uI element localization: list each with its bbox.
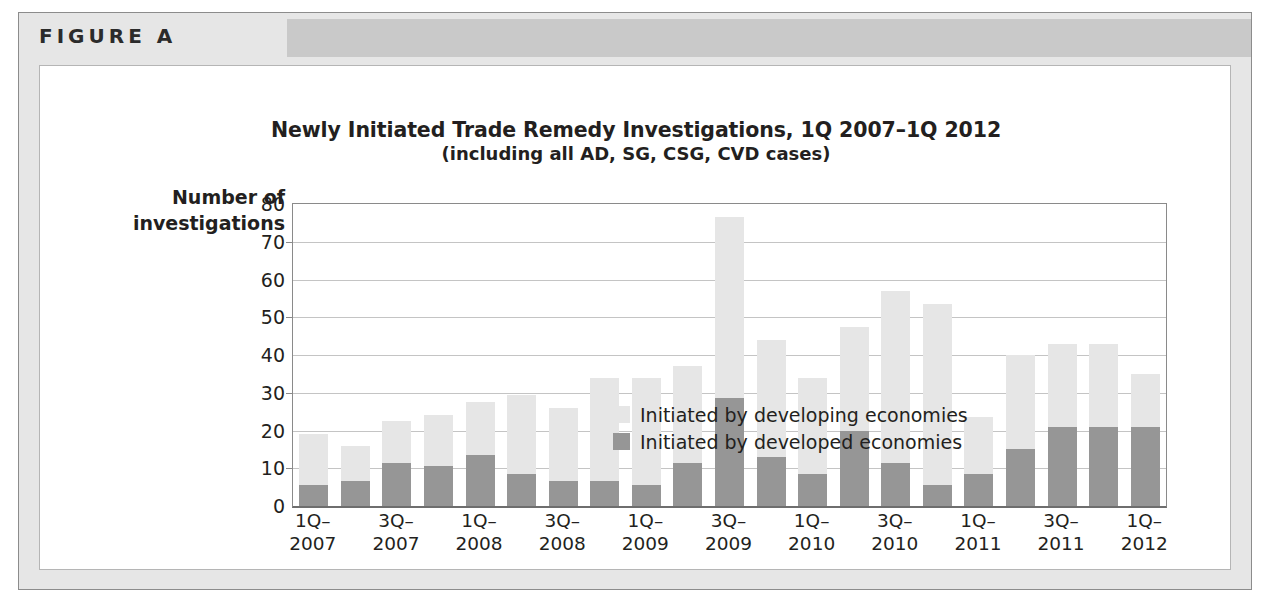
y-tick-mark <box>286 468 293 469</box>
y-tick-label: 20 <box>261 420 285 442</box>
x-tick-label-quarter: 3Q– <box>855 509 935 532</box>
x-tick-label-year: 2009 <box>689 532 769 555</box>
bar-segment-developing <box>923 304 952 485</box>
y-tick-label: 10 <box>261 457 285 479</box>
x-tick-label-year: 2010 <box>855 532 935 555</box>
x-tick-label-year: 2012 <box>1104 532 1184 555</box>
x-axis-labels: 1Q–20073Q–20071Q–20083Q–20081Q–20093Q–20… <box>292 509 1165 563</box>
figure-header-shade <box>287 19 1251 57</box>
bar-segment-developed <box>881 463 910 506</box>
bar-segment-developing <box>1089 344 1118 427</box>
bar-segment-developed <box>1048 427 1077 506</box>
x-tick-label-quarter: 1Q– <box>938 509 1018 532</box>
legend-swatch <box>613 433 630 450</box>
figure-frame: FIGURE A Newly Initiated Trade Remedy In… <box>18 12 1252 590</box>
bar-segment-developing <box>382 421 411 463</box>
bar-group <box>299 434 328 506</box>
x-tick-label: 3Q–2011 <box>1021 509 1101 555</box>
x-tick-label: 1Q–2010 <box>772 509 852 555</box>
x-tick-label-year: 2011 <box>1021 532 1101 555</box>
x-tick-label-year: 2008 <box>439 532 519 555</box>
bar-segment-developing <box>507 395 536 474</box>
y-tick-mark <box>286 393 293 394</box>
x-tick-label-quarter: 1Q– <box>439 509 519 532</box>
bar-group <box>964 417 993 506</box>
y-axis-title-line1: Number of <box>100 184 285 210</box>
bar-group <box>549 408 578 506</box>
bar-segment-developed <box>1131 427 1160 506</box>
bar-group <box>466 402 495 506</box>
bar-segment-developed <box>549 481 578 506</box>
x-tick-label-year: 2007 <box>356 532 436 555</box>
bar-segment-developing <box>1131 374 1160 427</box>
chart-subtitle: (including all AD, SG, CSG, CVD cases) <box>40 143 1232 164</box>
x-tick-label-year: 2008 <box>522 532 602 555</box>
bar-segment-developed <box>590 481 619 506</box>
legend-row: Initiated by developed economies <box>613 428 968 455</box>
y-tick-mark <box>286 242 293 243</box>
bar-group <box>424 415 453 506</box>
y-tick-label: 50 <box>261 306 285 328</box>
legend-row: Initiated by developing economies <box>613 401 968 428</box>
x-tick-label-quarter: 3Q– <box>1021 509 1101 532</box>
bar-group <box>881 291 910 506</box>
bar-segment-developed <box>673 463 702 506</box>
x-tick-label-quarter: 3Q– <box>356 509 436 532</box>
bar-group <box>341 446 370 506</box>
bar-segment-developed <box>923 485 952 506</box>
chart-panel: Newly Initiated Trade Remedy Investigati… <box>39 65 1231 570</box>
x-tick-label-quarter: 1Q– <box>605 509 685 532</box>
x-tick-label: 1Q–2007 <box>273 509 353 555</box>
y-tick-label: 40 <box>261 344 285 366</box>
bar-segment-developing <box>341 446 370 482</box>
bar-segment-developing <box>1048 344 1077 427</box>
figure-header-band: FIGURE A <box>19 13 1251 57</box>
y-axis-title-line2: investigations <box>100 210 285 236</box>
x-tick-label-year: 2007 <box>273 532 353 555</box>
x-tick-label-quarter: 1Q– <box>273 509 353 532</box>
x-tick-label-year: 2010 <box>772 532 852 555</box>
bar-group <box>715 217 744 506</box>
x-tick-label: 3Q–2008 <box>522 509 602 555</box>
bar-segment-developing <box>1006 355 1035 449</box>
bar-segment-developed <box>798 474 827 506</box>
x-tick-label: 3Q–2010 <box>855 509 935 555</box>
x-tick-label-quarter: 3Q– <box>522 509 602 532</box>
legend-label: Initiated by developing economies <box>640 404 968 426</box>
x-tick-label: 1Q–2012 <box>1104 509 1184 555</box>
bar-segment-developed <box>757 457 786 506</box>
bar-segment-developed <box>507 474 536 506</box>
bar-segment-developed <box>382 463 411 506</box>
bar-segment-developed <box>341 481 370 506</box>
bar-segment-developing <box>549 408 578 482</box>
bar-group <box>1131 374 1160 506</box>
legend-label: Initiated by developed economies <box>640 431 962 453</box>
figure-label: FIGURE A <box>39 24 176 48</box>
y-tick-label: 60 <box>261 269 285 291</box>
x-tick-label-year: 2009 <box>605 532 685 555</box>
plot-area: 01020304050607080 Initiated by developin… <box>292 203 1167 508</box>
bar-group <box>1006 355 1035 506</box>
y-axis-title: Number of investigations <box>100 184 285 236</box>
x-tick-label: 1Q–2011 <box>938 509 1018 555</box>
bar-group <box>382 421 411 506</box>
x-tick-label-quarter: 1Q– <box>1104 509 1184 532</box>
bar-segment-developed <box>964 474 993 506</box>
y-tick-label: 30 <box>261 382 285 404</box>
x-tick-label: 3Q–2007 <box>356 509 436 555</box>
bar-segment-developing <box>466 402 495 455</box>
bar-group <box>507 395 536 506</box>
bar-segment-developed <box>1006 449 1035 506</box>
bar-segment-developed <box>1089 427 1118 506</box>
bar-segment-developed <box>632 485 661 506</box>
bar-segment-developing <box>424 415 453 466</box>
y-tick-label: 70 <box>261 231 285 253</box>
bar-group <box>1089 344 1118 506</box>
bar-segment-developed <box>466 455 495 506</box>
bar-segment-developed <box>424 466 453 506</box>
chart-legend: Initiated by developing economiesInitiat… <box>613 401 968 455</box>
bar-segment-developing <box>715 217 744 398</box>
x-tick-label: 1Q–2008 <box>439 509 519 555</box>
chart-title: Newly Initiated Trade Remedy Investigati… <box>40 118 1232 142</box>
bar-group <box>1048 344 1077 506</box>
